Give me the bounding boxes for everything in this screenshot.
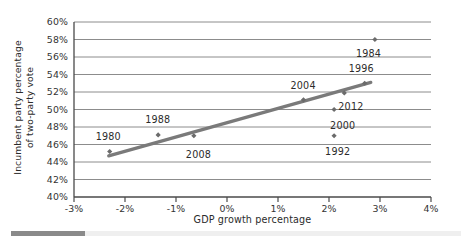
x-axis-tick-label: 2%: [309, 203, 349, 214]
scatter-chart: Incumbent party percentage of two-party …: [0, 0, 461, 239]
x-axis-tick-label: -1%: [156, 203, 196, 214]
y-axis-tick-label: 60%: [34, 16, 68, 27]
x-axis-tick-label: 4%: [411, 203, 451, 214]
x-axis-tick-label: -2%: [105, 203, 145, 214]
y-axis-tick-label: 52%: [34, 86, 68, 97]
y-axis-title-line-1: Incumbent party percentage: [12, 8, 24, 208]
y-axis-title-line-2: of two-party vote: [23, 8, 35, 208]
data-point-marker[interactable]: [156, 132, 161, 137]
data-point-label: 2012: [338, 101, 363, 112]
x-axis-tick-label: -3%: [54, 203, 94, 214]
data-point-label: 1980: [96, 131, 121, 142]
y-axis-title: Incumbent party percentage of two-party …: [12, 8, 35, 208]
data-point-label: 1992: [325, 146, 350, 157]
data-point-marker[interactable]: [372, 37, 377, 42]
y-axis-tick-label: 54%: [34, 69, 68, 80]
data-point-label: 1988: [145, 114, 170, 125]
y-axis-tick-label: 50%: [34, 104, 68, 115]
data-point-marker[interactable]: [107, 149, 112, 154]
x-axis-tick-label: 0%: [207, 203, 247, 214]
data-point-label: 2004: [291, 80, 316, 91]
data-point-label: 1996: [349, 63, 374, 74]
y-axis-tick-label: 46%: [34, 139, 68, 150]
data-point-label: 1984: [356, 48, 381, 59]
data-point-label: 2000: [330, 120, 355, 131]
x-axis-tick-label: 3%: [360, 203, 400, 214]
bottom-accent-bar-light: [85, 231, 461, 236]
y-axis-tick-label: 42%: [34, 174, 68, 185]
y-axis-tick-label: 56%: [34, 51, 68, 62]
x-axis-tick-label: 1%: [258, 203, 298, 214]
y-axis-tick-label: 44%: [34, 156, 68, 167]
data-point-marker[interactable]: [332, 107, 337, 112]
bottom-accent-bar: [11, 231, 85, 236]
y-axis-tick-label: 48%: [34, 121, 68, 132]
x-axis-title: GDP growth percentage: [74, 214, 431, 225]
data-point-marker[interactable]: [332, 133, 337, 138]
y-axis-tick-label: 58%: [34, 34, 68, 45]
y-axis-tick-label: 40%: [34, 191, 68, 202]
data-point-label: 2008: [186, 149, 211, 160]
